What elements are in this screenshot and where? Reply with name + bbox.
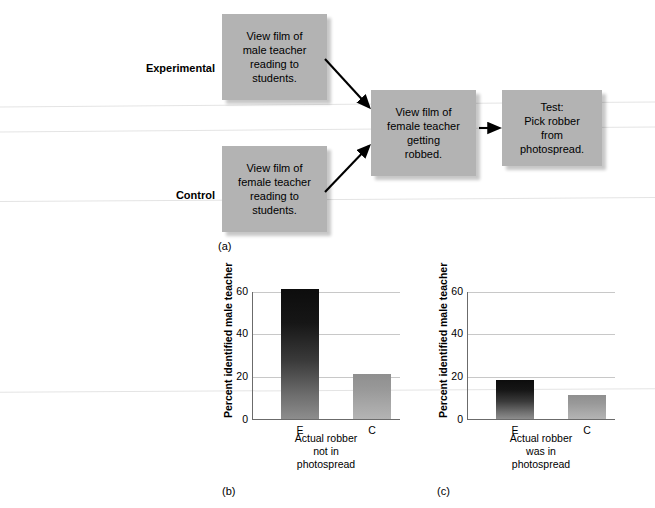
panel-caption-a: (a) (218, 240, 231, 252)
panel-caption-c: (c) (437, 485, 450, 497)
gridline-60 (467, 292, 615, 293)
y-tick-label: 40 (224, 327, 248, 339)
flow-diagram-panel-a: Experimental Control View film of male t… (0, 0, 655, 262)
x-axis-caption-line: photospread (453, 458, 629, 471)
y-axis-title: Percent identified male teacher (437, 278, 451, 418)
x-axis-caption-line: Actual robber (453, 432, 629, 445)
y-tick-label: 40 (439, 327, 463, 339)
gridline-20 (467, 377, 615, 378)
plot-area: 60 40 20 0 E C (467, 292, 615, 420)
x-axis-caption: Actual robber not in photospread (238, 432, 414, 471)
gridline-40 (252, 334, 400, 335)
bar-chart-panel-c: Percent identified male teacher 60 40 20… (411, 272, 631, 487)
bar-E (496, 380, 534, 419)
arrow-experimental-to-robbery (325, 59, 369, 107)
bar-E (281, 289, 319, 419)
x-axis-caption: Actual robber was in photospread (453, 432, 629, 471)
x-axis-caption-line: not in (238, 445, 414, 458)
y-axis-title: Percent identified male teacher (222, 278, 236, 418)
plot-area: 60 40 20 0 E C (252, 292, 400, 420)
y-axis-line (467, 292, 468, 420)
y-tick-label: 0 (439, 413, 463, 425)
x-axis-caption-line: photospread (238, 458, 414, 471)
arrow-control-to-robbery (325, 146, 369, 192)
y-tick-label: 60 (439, 285, 463, 297)
x-axis-line (467, 419, 615, 420)
x-axis-caption-line: was in (453, 445, 629, 458)
bar-C (353, 374, 391, 419)
y-tick-label: 0 (224, 413, 248, 425)
flow-arrows (0, 0, 655, 262)
y-tick-label: 20 (439, 370, 463, 382)
y-tick-label: 20 (224, 370, 248, 382)
bar-chart-panel-b: Percent identified male teacher 60 40 20… (196, 272, 416, 487)
y-tick-label: 60 (224, 285, 248, 297)
bar-C (568, 395, 606, 419)
y-axis-line (252, 292, 253, 420)
x-axis-line (252, 419, 400, 420)
gridline-40 (467, 334, 615, 335)
x-axis-caption-line: Actual robber (238, 432, 414, 445)
panel-caption-b: (b) (222, 485, 235, 497)
gridline-60 (252, 292, 400, 293)
